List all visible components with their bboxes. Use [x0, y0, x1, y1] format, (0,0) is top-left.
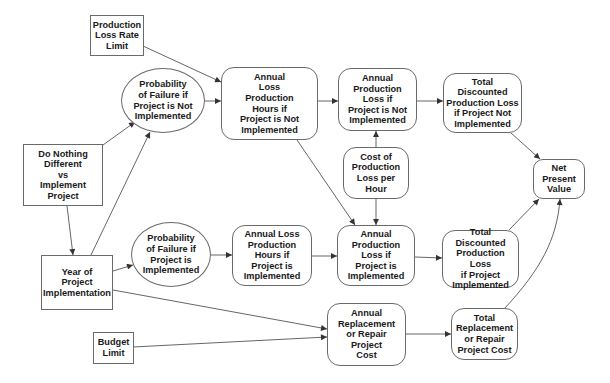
node-label: Production Loss Rate Limit [93, 20, 142, 52]
node-do-nothing-vs-implement: Do Nothing Different vs Implement Projec… [23, 144, 103, 206]
node-production-loss-rate-limit: Production Loss Rate Limit [90, 15, 144, 56]
node-annual-prod-loss-not-impl: Annual Production Loss if Project is Not… [338, 68, 417, 131]
edge-do-nothing-to-prob-not-impl [103, 122, 135, 145]
node-annual-loss-hours-impl: Annual Loss Production Hours if Project … [232, 225, 312, 286]
node-label: Probability of Failure if Project is Imp… [143, 233, 200, 275]
node-label: Year of Project Implementation [43, 267, 111, 299]
node-prob-failure-impl: Probability of Failure if Project is Imp… [131, 222, 211, 287]
edge-year-to-replacement [113, 290, 327, 329]
node-label: Total Discounted Production Loss if Proj… [446, 77, 519, 130]
edge-do-nothing-to-year [67, 206, 73, 255]
edge-loss-impl-to-total-impl [415, 257, 442, 258]
node-label: Annual Production Loss if Project is Imp… [348, 229, 405, 282]
edge-budget-to-replacement [133, 337, 327, 347]
node-label: Annual Replacement or Repair Project Cos… [338, 308, 395, 361]
node-label: Total Discounted Production Loss if Proj… [445, 227, 516, 291]
node-prob-failure-not-impl: Probability of Failure if Project is Not… [121, 68, 205, 133]
node-annual-replacement-cost: Annual Replacement or Repair Project Cos… [327, 303, 406, 366]
node-budget-limit: Budget Limit [93, 332, 134, 364]
node-label: Cost of Production Loss per Hour [352, 152, 401, 194]
node-total-replacement-cost: Total Replacement or Repair Project Cost [451, 308, 518, 360]
node-total-disc-loss-not-impl: Total Discounted Production Loss if Proj… [443, 73, 522, 133]
edge-year-to-prob-impl [113, 265, 133, 271]
node-label: Annual Loss Production Hours if Project … [244, 229, 301, 282]
node-label: Do Nothing Different vs Implement Projec… [38, 149, 88, 202]
node-total-disc-loss-impl: Total Discounted Production Loss if Proj… [442, 230, 519, 288]
node-label: Probability of Failure if Project is Not… [133, 79, 192, 121]
node-annual-loss-hours-not-impl: Annual Loss Production Hours if Project … [221, 67, 318, 140]
node-label: Annual Loss Production Hours if Project … [240, 72, 299, 136]
node-label: Net Present Value [542, 163, 576, 195]
edge-total-not-impl-to-npv [511, 133, 540, 159]
node-label: Total Replacement or Repair Project Cost [456, 313, 513, 355]
edge-total-impl-to-npv [509, 199, 539, 230]
node-label: Annual Production Loss if Project is Not… [348, 73, 407, 126]
node-label: Budget Limit [98, 337, 130, 358]
node-annual-prod-loss-impl: Annual Production Loss if Project is Imp… [337, 225, 415, 286]
node-year-of-implementation: Year of Project Implementation [41, 255, 113, 310]
node-cost-per-hour: Cost of Production Loss per Hour [343, 147, 409, 199]
node-net-present-value: Net Present Value [533, 159, 585, 199]
